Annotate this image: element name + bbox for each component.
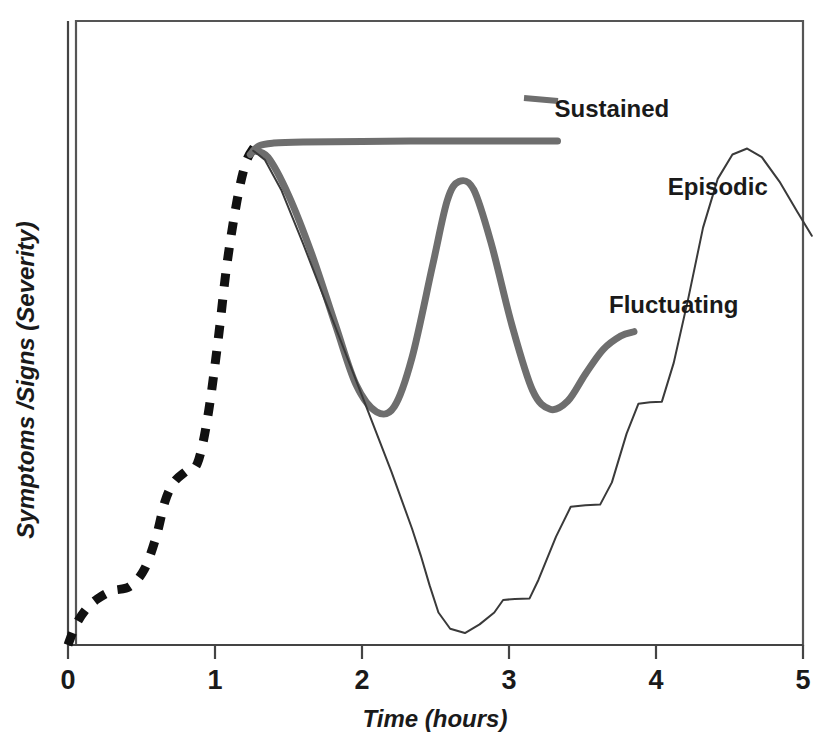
series-layer: [68, 141, 812, 645]
x-axis-title: Time (hours): [363, 705, 508, 732]
series-annotations: SustainedEpisodicFluctuating: [555, 95, 768, 319]
x-tick-label: 4: [648, 665, 663, 695]
series-line-onset: [68, 146, 255, 645]
series-label-episodic: Episodic: [668, 173, 768, 200]
frame-border: [76, 21, 803, 645]
x-tick-label: 0: [60, 665, 75, 695]
x-axis: 012345: [60, 645, 810, 695]
series-label-sustained: Sustained: [555, 95, 670, 122]
series-label-fluctuating: Fluctuating: [609, 291, 738, 318]
x-axis-ticks: [68, 645, 803, 659]
series-line-sustained: [250, 141, 557, 155]
sustained-leader-line: [524, 98, 558, 101]
x-tick-label: 5: [795, 665, 810, 695]
x-tick-label: 3: [501, 665, 516, 695]
series-line-fluctuating: [253, 151, 634, 414]
chart-canvas: 012345 SustainedEpisodicFluctuating Time…: [0, 0, 830, 746]
x-axis-tick-labels: 012345: [60, 665, 810, 695]
x-tick-label: 1: [207, 665, 222, 695]
label-leader-lines: [524, 98, 558, 101]
plot-frame: [76, 21, 803, 645]
figure-container: 012345 SustainedEpisodicFluctuating Time…: [0, 0, 830, 746]
x-tick-label: 2: [354, 665, 369, 695]
y-axis-title: Symptoms /Signs (Severity): [12, 221, 39, 538]
